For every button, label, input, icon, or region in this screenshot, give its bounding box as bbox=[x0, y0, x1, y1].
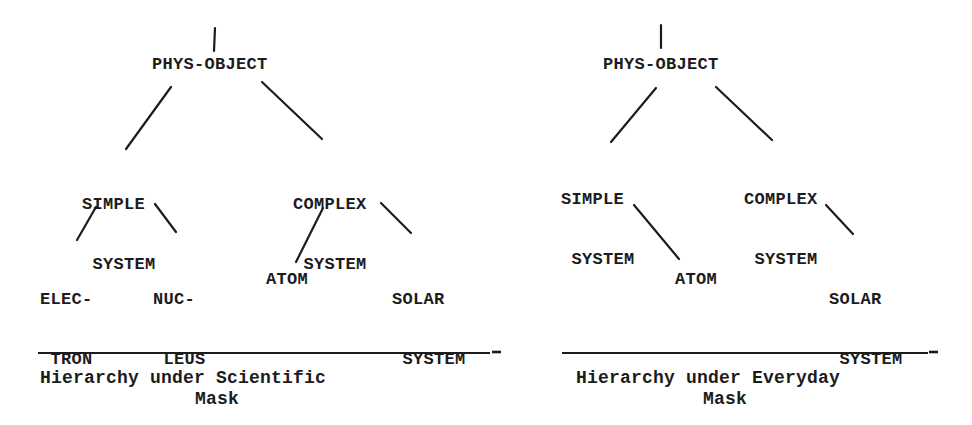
node-phys-object: PHYS-OBJECT bbox=[152, 55, 268, 75]
node-label-line: SIMPLE bbox=[82, 195, 156, 215]
node-label-line: SOLAR bbox=[829, 290, 903, 310]
node-label-line: SIMPLE bbox=[561, 190, 635, 210]
caption-everyday: Hierarchy under Everyday bbox=[576, 368, 840, 388]
node-phys-object: PHYS-OBJECT bbox=[603, 55, 719, 75]
node-label-line: SYSTEM bbox=[829, 350, 903, 370]
diagram-canvas: PHYS-OBJECT SIMPLE SYSTEM COMPLEX SYSTEM… bbox=[0, 0, 972, 425]
node-label-line: SYSTEM bbox=[392, 350, 466, 370]
node-atom: ATOM bbox=[675, 270, 717, 290]
node-complex-system: COMPLEX SYSTEM bbox=[293, 155, 367, 315]
node-label-line: LEUS bbox=[153, 350, 216, 370]
node-label-line: ELEC- bbox=[40, 290, 103, 310]
node-label-line: COMPLEX bbox=[744, 190, 818, 210]
caption-scientific: Hierarchy under Scientific bbox=[40, 368, 326, 388]
edge-complex-solar-left bbox=[381, 203, 411, 233]
node-label-line: COMPLEX bbox=[293, 195, 367, 215]
node-label-line: SYSTEM bbox=[744, 250, 818, 270]
node-solar-system: SOLAR SYSTEM bbox=[392, 250, 466, 410]
edge-simple-nucleus bbox=[155, 204, 176, 232]
edge-phys-simple-left bbox=[126, 87, 171, 149]
edge-simple-atom-right bbox=[634, 205, 679, 259]
edge-complex-solar-right bbox=[826, 205, 853, 234]
node-label-line: SYSTEM bbox=[561, 250, 635, 270]
caption-scientific-line2: Mask bbox=[195, 389, 239, 409]
node-label-line: NUC- bbox=[153, 290, 216, 310]
node-complex-system: COMPLEX SYSTEM bbox=[744, 150, 818, 310]
node-simple-system: SIMPLE SYSTEM bbox=[561, 150, 635, 310]
root-stem-left bbox=[214, 28, 215, 51]
caption-everyday-line2: Mask bbox=[703, 389, 747, 409]
edge-phys-complex-left bbox=[262, 82, 322, 139]
edge-phys-simple-right bbox=[611, 88, 656, 142]
node-label-line: TRON bbox=[40, 350, 103, 370]
edge-phys-complex-right bbox=[716, 87, 772, 140]
node-label-line: SOLAR bbox=[392, 290, 466, 310]
node-atom: ATOM bbox=[266, 270, 308, 290]
